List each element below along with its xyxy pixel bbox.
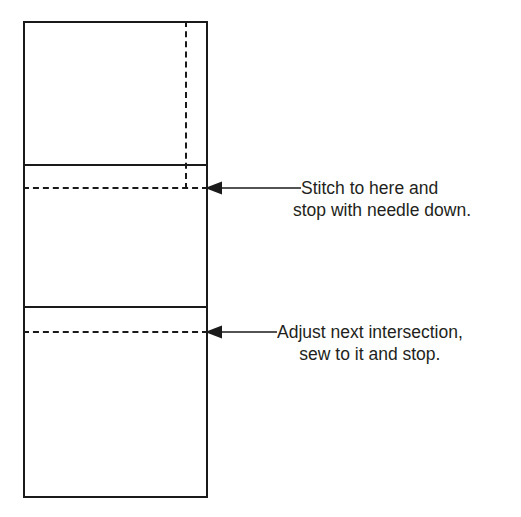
arrow-left-icon [205, 174, 301, 202]
diagram-canvas: Stitch to here and stop with needle down… [0, 0, 521, 517]
callout-text-1-line-1: Stitch to here and [301, 177, 471, 199]
callout-text-1: Stitch to here and stop with needle down… [301, 177, 471, 221]
callout-text-1-line-2: stop with needle down. [293, 199, 471, 221]
arrow-left-icon [205, 318, 277, 346]
vertical-alignment-line [185, 21, 187, 189]
seam-line-lower [23, 306, 208, 308]
callout-text-2-line-2: sew to it and stop. [277, 343, 463, 365]
callout-stitch-to-here: Stitch to here and stop with needle down… [205, 174, 471, 221]
stitch-line-lower [23, 331, 208, 333]
callout-adjust-next-intersection: Adjust next intersection, sew to it and … [205, 318, 463, 365]
seam-line-upper [23, 164, 208, 166]
stitch-line-upper [23, 187, 208, 189]
fabric-panel [23, 21, 208, 498]
callout-text-2-line-1: Adjust next intersection, [277, 321, 463, 343]
callout-text-2: Adjust next intersection, sew to it and … [277, 321, 463, 365]
